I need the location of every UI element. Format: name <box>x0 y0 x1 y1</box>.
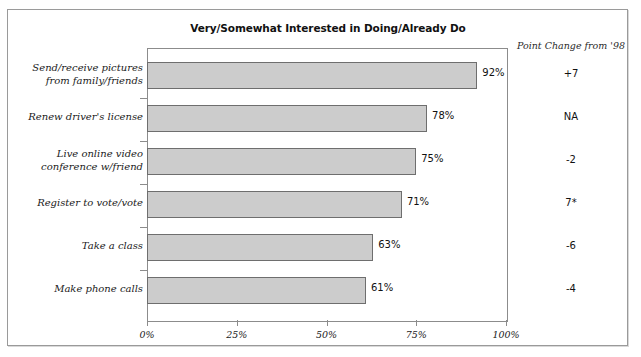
bar-value-label: 61% <box>371 282 393 293</box>
x-axis-tick <box>327 320 328 326</box>
point-change-value: NA <box>513 111 629 122</box>
category-label-line: Renew driver's license <box>8 111 143 124</box>
bar[interactable] <box>147 148 416 175</box>
x-axis-tick <box>416 320 417 326</box>
x-axis-tick <box>506 320 507 326</box>
y-axis-tick <box>140 227 147 228</box>
point-change-value: +7 <box>513 68 629 79</box>
bar-value-label: 92% <box>482 67 504 78</box>
y-axis-tick <box>140 270 147 271</box>
category-label-line: from family/friends <box>8 75 143 88</box>
category-label-line: conference w/friend <box>8 161 143 174</box>
bar[interactable] <box>147 105 427 132</box>
category-label-line: Register to vote/vote <box>8 197 143 210</box>
x-axis-tick-label: 0% <box>139 329 154 340</box>
y-axis-tick <box>140 184 147 185</box>
chart-figure: Very/Somewhat Interested in Doing/Alread… <box>7 9 628 346</box>
point-change-value: 7* <box>513 197 629 208</box>
bar-row: 92% <box>147 54 506 97</box>
bar[interactable] <box>147 62 477 89</box>
bar-row: 75% <box>147 140 506 183</box>
bar-series: 92%78%75%71%63%61% <box>147 48 506 320</box>
category-label-line: Make phone calls <box>8 283 143 296</box>
bar-value-label: 75% <box>421 153 443 164</box>
category-label-line: Send/receive pictures <box>8 62 143 75</box>
point-change-value: -6 <box>513 240 629 251</box>
bar[interactable] <box>147 191 402 218</box>
category-label: Live online videoconference w/friend <box>8 148 143 173</box>
x-axis-tick <box>237 320 238 326</box>
bar-row: 63% <box>147 226 506 269</box>
category-axis-labels: Send/receive picturesfrom family/friends… <box>8 48 143 320</box>
bar-row: 61% <box>147 269 506 312</box>
x-axis-tick-label: 25% <box>226 329 247 340</box>
x-axis-tick <box>147 320 148 326</box>
x-axis-tick-label: 50% <box>316 329 337 340</box>
bar-value-label: 71% <box>407 196 429 207</box>
y-axis-tick <box>140 141 147 142</box>
page-title: Very/Somewhat Interested in Doing/Alread… <box>148 22 508 34</box>
bar[interactable] <box>147 234 373 261</box>
category-label: Register to vote/vote <box>8 197 143 210</box>
category-label: Take a class <box>8 240 143 253</box>
point-change-value: -2 <box>513 154 629 165</box>
bar[interactable] <box>147 277 366 304</box>
x-axis: 0%25%50%75%100% <box>147 320 506 350</box>
category-label-line: Take a class <box>8 240 143 253</box>
bar-row: 78% <box>147 97 506 140</box>
bar-value-label: 78% <box>432 110 454 121</box>
y-axis-tick <box>140 98 147 99</box>
x-axis-tick-label: 75% <box>406 329 427 340</box>
bar-row: 71% <box>147 183 506 226</box>
category-label: Renew driver's license <box>8 111 143 124</box>
bar-value-label: 63% <box>378 239 400 250</box>
category-label: Make phone calls <box>8 283 143 296</box>
point-change-value: -4 <box>513 283 629 294</box>
category-label: Send/receive picturesfrom family/friends <box>8 62 143 87</box>
category-label-line: Live online video <box>8 148 143 161</box>
point-change-column: +7NA-27*-6-4 <box>513 48 629 320</box>
x-axis-tick-label: 100% <box>492 329 519 340</box>
